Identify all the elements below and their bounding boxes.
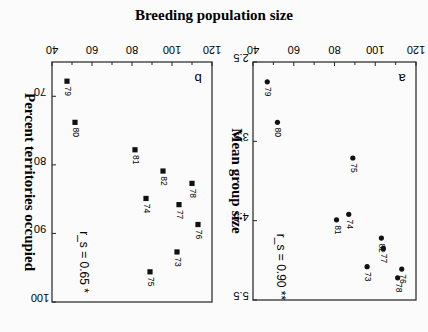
point-label: 77: [379, 254, 389, 264]
point-label: 74: [345, 220, 355, 230]
correlation-annotation: r_s = 0.65 *: [77, 231, 91, 293]
data-point: [346, 212, 351, 217]
x-tick-label: 5.5: [233, 290, 248, 302]
y-tick-label: 100: [163, 44, 181, 56]
panel-a: 4060801001202.53.54.55.5Mean group sizea…: [229, 44, 425, 302]
data-point: [395, 275, 400, 280]
data-point: [64, 79, 69, 84]
y-tick-label: 60: [86, 44, 98, 56]
point-label: 82: [159, 176, 169, 186]
point-label: 79: [263, 87, 273, 97]
panels: 4060801001202.53.54.55.5Mean group sizea…: [22, 44, 425, 304]
point-label: 81: [131, 155, 141, 165]
point-label: 73: [173, 257, 183, 267]
y-tick-label: 80: [126, 44, 138, 56]
point-label: 77: [175, 210, 185, 220]
data-point: [275, 120, 280, 125]
data-point: [381, 246, 386, 251]
point-label: 75: [146, 277, 156, 287]
point-label: 74: [142, 204, 152, 214]
point-label: 76: [194, 230, 204, 240]
point-label: 78: [188, 189, 198, 199]
data-point: [195, 222, 200, 227]
panel-letter: b: [194, 71, 201, 86]
scatter-figure: Breeding population size 4060801001202.5…: [0, 0, 428, 332]
figure: Breeding population size 4060801001202.5…: [0, 0, 428, 332]
panel-b: 406080100120708090100Percent territories…: [22, 44, 221, 304]
data-point: [160, 168, 165, 173]
data-point: [174, 249, 179, 254]
y-tick-label: 40: [46, 44, 58, 56]
y-tick-label: 80: [328, 44, 340, 56]
plot-frame: [52, 62, 212, 302]
y-tick-label: 60: [288, 44, 300, 56]
point-label: 79: [63, 86, 73, 96]
panel-letter: a: [398, 71, 406, 86]
data-point: [72, 120, 77, 125]
point-label: 75: [349, 163, 359, 173]
x-axis-label: Percent territories occupied: [22, 93, 38, 272]
y-tick-label: 120: [407, 44, 425, 56]
data-point: [399, 266, 404, 271]
point-label: 81: [333, 225, 343, 235]
data-point: [334, 217, 339, 222]
data-point: [176, 202, 181, 207]
y-tick-label: 100: [366, 44, 384, 56]
data-point: [379, 236, 384, 241]
data-point: [147, 269, 152, 274]
data-point: [143, 196, 148, 201]
x-axis-label: Mean group size: [229, 128, 245, 234]
point-label: 78: [394, 283, 404, 293]
data-point: [365, 264, 370, 269]
point-label: 73: [363, 272, 373, 282]
data-point: [350, 155, 355, 160]
point-label: 80: [273, 128, 283, 138]
data-point: [265, 79, 270, 84]
x-tick-label: 2.5: [233, 52, 248, 64]
x-tick-label: 100: [31, 292, 49, 304]
correlation-annotation: r_s = 0.90 **: [274, 234, 288, 301]
y-tick-label: 120: [203, 44, 221, 56]
point-label: 80: [71, 128, 81, 138]
shared-y-axis-label: Breeding population size: [135, 7, 293, 23]
data-point: [132, 147, 137, 152]
data-point: [189, 181, 194, 186]
